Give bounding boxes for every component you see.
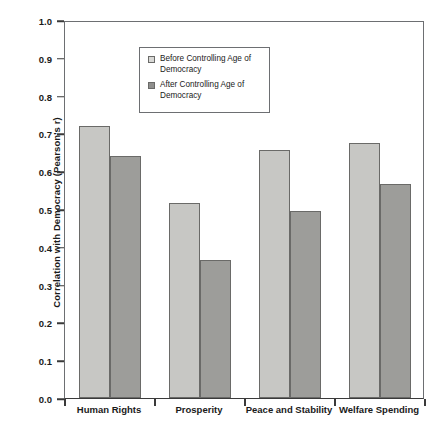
y-tick-label: 0.5: [18, 205, 52, 216]
bar-human-rights-after: [110, 156, 141, 398]
y-tick-label: 0.9: [18, 53, 52, 64]
y-tick-mark: [57, 171, 64, 173]
y-tick-mark: [57, 209, 64, 211]
bar-chart: Correlation with Democracy (Pearson's r)…: [0, 0, 446, 442]
bar-welfare-spending-before: [349, 143, 380, 398]
y-tick-mark: [57, 20, 64, 22]
y-tick-label: 0.6: [18, 167, 52, 178]
legend-item-after: After Controlling Age of Democracy: [148, 80, 269, 101]
y-axis-title: Correlation with Democracy (Pearson's r): [51, 53, 62, 373]
x-axis-label-human-rights: Human Rights: [64, 404, 154, 416]
y-tick-mark: [57, 247, 64, 249]
legend-label: After Controlling Age of Democracy: [160, 80, 264, 101]
y-tick-label: 0.7: [18, 129, 52, 140]
y-tick-label: 0.0: [18, 394, 52, 405]
y-tick-label: 0.4: [18, 242, 52, 253]
y-tick-mark: [57, 96, 64, 98]
y-tick-mark: [57, 134, 64, 136]
legend-label: Before Controlling Age of Democracy: [160, 54, 264, 75]
y-tick-mark: [57, 323, 64, 325]
y-tick-mark: [57, 285, 64, 287]
legend-swatch-before-icon: [148, 56, 155, 63]
y-tick-mark: [57, 360, 64, 362]
x-axis-label-welfare-spending: Welfare Spending: [334, 404, 424, 416]
bar-welfare-spending-after: [380, 184, 411, 398]
legend-swatch-after-icon: [148, 82, 155, 89]
y-tick-label: 0.3: [18, 280, 52, 291]
x-axis-label-prosperity: Prosperity: [154, 404, 244, 416]
y-tick-mark: [57, 398, 64, 400]
bar-human-rights-before: [79, 126, 110, 398]
bar-peace-and-stability-before: [259, 150, 290, 398]
legend-item-before: Before Controlling Age of Democracy: [148, 54, 269, 75]
x-axis-end-tick: [424, 399, 426, 406]
y-tick-label: 0.1: [18, 356, 52, 367]
y-tick-mark: [57, 58, 64, 60]
bar-peace-and-stability-after: [290, 211, 321, 398]
bar-prosperity-before: [169, 203, 200, 398]
y-tick-label: 0.8: [18, 91, 52, 102]
x-axis-label-peace-and-stability: Peace and Stability: [244, 404, 334, 416]
bar-prosperity-after: [200, 260, 231, 398]
y-tick-label: 0.2: [18, 318, 52, 329]
chart-legend: Before Controlling Age of DemocracyAfter…: [139, 47, 270, 113]
y-tick-label: 1.0: [18, 16, 52, 27]
